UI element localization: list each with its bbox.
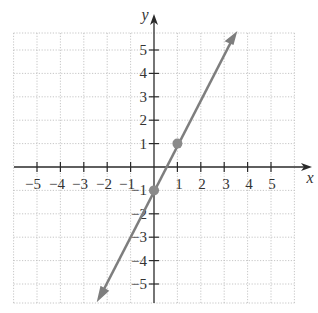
x-tick-label: −4: [49, 176, 65, 192]
y-axis-label: y: [139, 6, 149, 24]
x-axis-label: x: [305, 169, 313, 186]
y-tick-label: 1: [140, 136, 148, 152]
x-tick-label: 2: [198, 176, 206, 192]
line-arrow-down-icon: [98, 287, 108, 300]
y-tick-label: 3: [140, 89, 148, 105]
y-tick-label: −5: [131, 276, 147, 292]
y-tick-label: 5: [140, 42, 148, 58]
y-tick-label: 4: [140, 65, 148, 81]
point-0-neg1: [149, 185, 159, 195]
y-tick-label: 2: [140, 112, 148, 128]
y-tick-label: −4: [131, 253, 147, 269]
x-tick-label: −5: [25, 176, 41, 192]
x-tick-label: 3: [222, 176, 230, 192]
line-arrow-up-icon: [226, 33, 236, 44]
x-tick-label: −3: [72, 176, 88, 192]
y-tick-label: −1: [131, 182, 147, 198]
point-1-1: [172, 139, 182, 149]
x-tick-label: 1: [175, 176, 183, 192]
x-tick-label: −2: [96, 176, 112, 192]
y-axis: [150, 14, 158, 303]
x-tick-label: 5: [268, 176, 276, 192]
x-tick-label: 4: [245, 176, 253, 192]
coordinate-plane: −5 −4 −3 −2 −1 1 2 3 4 5 5 4 3 2 1 −1 −2…: [0, 0, 318, 313]
x-axis: [14, 163, 312, 171]
